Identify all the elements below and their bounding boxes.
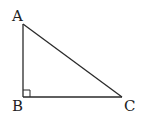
vertex-label-a: A <box>11 7 23 25</box>
vertex-label-c: C <box>124 97 135 115</box>
triangle-diagram: A B C <box>0 0 142 118</box>
right-angle-marker <box>23 90 30 97</box>
vertex-label-b: B <box>12 97 23 115</box>
edge-ac <box>23 24 122 97</box>
triangle-edges <box>23 24 122 97</box>
